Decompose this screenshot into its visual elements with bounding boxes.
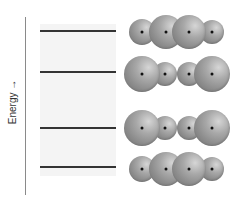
nucleus-dot [211, 73, 214, 76]
nucleus-dot [211, 127, 214, 130]
nucleus-dot [188, 31, 191, 34]
nucleus-dot [165, 168, 168, 171]
energy-level-line-1 [40, 30, 116, 32]
nucleus-dot [165, 31, 168, 34]
energy-level-line-4 [40, 166, 116, 168]
nucleus-dot [188, 73, 191, 76]
nucleus-dot [188, 127, 191, 130]
nucleus-dot [164, 127, 167, 130]
nucleus-dot [211, 168, 214, 171]
energy-level-line-2 [40, 71, 116, 73]
nucleus-dot [141, 168, 144, 171]
energy-axis [25, 17, 26, 195]
energy-axis-label: Energy → [7, 80, 18, 124]
energy-level-line-3 [40, 127, 116, 129]
energy-level-panel [40, 24, 116, 176]
nucleus-dot [211, 31, 214, 34]
nucleus-dot [141, 31, 144, 34]
nucleus-dot [141, 127, 144, 130]
nucleus-dot [164, 73, 167, 76]
nucleus-dot [188, 168, 191, 171]
nucleus-dot [141, 73, 144, 76]
